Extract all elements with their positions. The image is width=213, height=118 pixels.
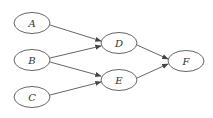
edge-b-to-d	[50, 46, 101, 58]
node-d: D	[101, 33, 137, 54]
node-a: A	[14, 13, 50, 34]
node-a-label: A	[27, 18, 35, 29]
node-f: F	[168, 51, 204, 72]
node-d-label: D	[114, 38, 123, 49]
edge-a-to-d	[50, 25, 101, 41]
node-c-label: C	[28, 92, 36, 103]
edge-b-to-e	[50, 62, 101, 76]
edge-d-to-f	[137, 45, 168, 59]
node-b: B	[14, 50, 50, 71]
node-e-label: E	[114, 75, 123, 86]
dag-diagram: A B C D E F	[0, 0, 213, 118]
node-b-label: B	[27, 55, 35, 66]
edge-e-to-f	[137, 64, 168, 78]
node-f-label: F	[182, 56, 191, 67]
node-e: E	[101, 70, 137, 91]
edge-c-to-e	[50, 82, 101, 95]
node-c: C	[14, 87, 50, 108]
